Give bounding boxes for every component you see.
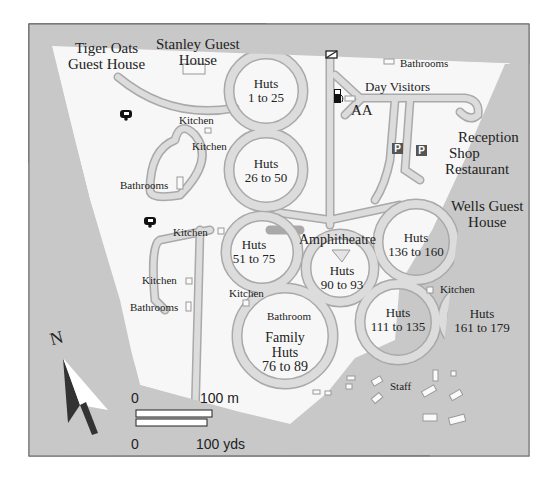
label-shop: Shop [445, 146, 519, 162]
label-line: 161 to 179 [446, 321, 518, 335]
label-line: 90 to 93 [314, 278, 370, 292]
label-line: 111 to 135 [362, 320, 434, 334]
label-line: Huts [255, 346, 315, 361]
scale-yd-end: 100 yds [196, 436, 245, 452]
label-restaurant: Restaurant [445, 162, 519, 178]
label-line: Family [255, 331, 315, 346]
label-line: 51 to 75 [224, 252, 284, 266]
label-huts-26-50: Huts 26 to 50 [238, 157, 294, 184]
label-line: Huts [242, 77, 290, 91]
label-kitchen: Kitchen [229, 288, 264, 300]
scale-yd-start: 0 [131, 436, 139, 452]
label-huts-90-93: Huts 90 to 93 [314, 264, 370, 291]
label-line: Guest House [68, 57, 145, 73]
label-line: House [156, 53, 240, 69]
label-line: Huts [446, 307, 518, 321]
label-aa: AA [351, 103, 373, 119]
label-line: Huts [314, 264, 370, 278]
scale-m-end: 100 m [200, 390, 239, 406]
label-huts-51-75: Huts 51 to 75 [224, 238, 284, 265]
label-bathrooms-low: Bathrooms [130, 302, 178, 314]
label-staff: Staff [390, 381, 411, 393]
label-line: Huts [224, 238, 284, 252]
label-line: Huts [362, 306, 434, 320]
label-huts-161-179: Huts 161 to 179 [446, 307, 518, 334]
label-line: 76 to 89 [255, 360, 315, 375]
label-line: Wells Guest [451, 199, 524, 215]
label-reception: Reception [445, 130, 519, 146]
scale-m-start: 0 [131, 390, 139, 406]
label-line: 1 to 25 [242, 91, 290, 105]
label-family-huts: Family Huts 76 to 89 [255, 331, 315, 375]
svg-text:P: P [394, 143, 401, 154]
label-line: House [451, 215, 524, 231]
label-bathrooms-left: Bathrooms [120, 180, 168, 192]
label-huts-136-160: Huts 136 to 160 [380, 231, 452, 258]
label-huts-1-25: Huts 1 to 25 [242, 77, 290, 104]
label-line: Tiger Oats [68, 41, 145, 57]
label-line: 136 to 160 [380, 245, 452, 259]
label-amphitheatre: Amphitheatre [299, 233, 376, 248]
svg-text:P: P [418, 145, 425, 156]
label-bathroom-family: Bathroom [267, 311, 311, 323]
label-kitchen: Kitchen [192, 141, 227, 153]
label-tiger-oats: Tiger Oats Guest House [68, 41, 145, 73]
gate-icon [326, 51, 337, 58]
label-kitchen: Kitchen [440, 284, 475, 296]
label-line: 26 to 50 [238, 171, 294, 185]
label-huts-111-135: Huts 111 to 135 [362, 306, 434, 333]
label-bathrooms-top: Bathrooms [400, 58, 448, 70]
label-day-visitors: Day Visitors [365, 80, 430, 94]
parking-icon: P [392, 143, 403, 154]
label-kitchen: Kitchen [179, 115, 214, 127]
label-wells: Wells Guest House [451, 199, 524, 231]
label-line: Huts [238, 157, 294, 171]
label-reception-shop-restaurant: Reception Shop Restaurant [445, 130, 519, 177]
label-stanley: Stanley Guest House [156, 37, 240, 69]
label-kitchen: Kitchen [173, 227, 208, 239]
label-line: Stanley Guest [156, 37, 240, 53]
parking-icon: P [416, 145, 427, 156]
label-line: Huts [380, 231, 452, 245]
label-kitchen: Kitchen [142, 275, 177, 287]
